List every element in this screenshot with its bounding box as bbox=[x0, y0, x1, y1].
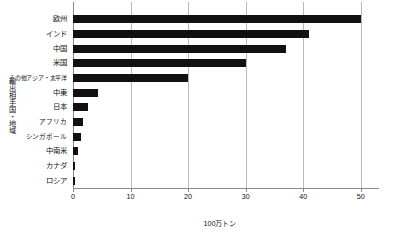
x-axis-title: 100万トン bbox=[0, 218, 412, 228]
bar[interactable] bbox=[73, 30, 309, 38]
bar[interactable] bbox=[73, 59, 246, 67]
category-label: インド bbox=[16, 27, 70, 42]
tick-label: 10 bbox=[127, 192, 135, 201]
y-axis-title: 輸出相手国・地域 bbox=[2, 78, 16, 134]
bar[interactable] bbox=[73, 133, 81, 141]
bar-row[interactable] bbox=[73, 115, 378, 130]
bar[interactable] bbox=[73, 147, 78, 155]
category-label: 欧州 bbox=[16, 12, 70, 27]
category-label: 米国 bbox=[16, 56, 70, 71]
bar[interactable] bbox=[73, 74, 188, 82]
category-label: 中国 bbox=[16, 41, 70, 56]
category-label: 日本 bbox=[16, 100, 70, 115]
bar[interactable] bbox=[73, 15, 361, 23]
bar-row[interactable] bbox=[73, 100, 378, 115]
bar-row[interactable] bbox=[73, 173, 378, 188]
tick-label: 20 bbox=[184, 192, 192, 201]
bar[interactable] bbox=[73, 103, 88, 111]
x-axis-ticks: 01020304050 bbox=[73, 189, 378, 201]
category-label: シンガポール bbox=[16, 129, 70, 144]
bar[interactable] bbox=[73, 177, 75, 185]
bars-container bbox=[73, 12, 378, 188]
tick-label: 50 bbox=[357, 192, 365, 201]
bar-row[interactable] bbox=[73, 129, 378, 144]
tick-label: 30 bbox=[242, 192, 250, 201]
category-label: カナダ bbox=[16, 159, 70, 174]
plot-area bbox=[73, 12, 378, 188]
category-label: 中東 bbox=[16, 85, 70, 100]
bar-row[interactable] bbox=[73, 56, 378, 71]
category-label: その他アジア・太平洋 bbox=[16, 71, 70, 86]
bar-row[interactable] bbox=[73, 85, 378, 100]
bar[interactable] bbox=[73, 45, 286, 53]
bar-row[interactable] bbox=[73, 71, 378, 86]
bar-row[interactable] bbox=[73, 159, 378, 174]
bar[interactable] bbox=[73, 89, 98, 97]
tick-label: 40 bbox=[299, 192, 307, 201]
bar-row[interactable] bbox=[73, 41, 378, 56]
bar-row[interactable] bbox=[73, 12, 378, 27]
bar-row[interactable] bbox=[73, 144, 378, 159]
category-label: 中南米 bbox=[16, 144, 70, 159]
category-label: ロシア bbox=[16, 173, 70, 188]
bar-chart: 輸出相手国・地域 欧州 インド 中国 米国 その他アジア・太平洋 中東 日本 ア… bbox=[0, 0, 412, 239]
bar[interactable] bbox=[73, 162, 75, 170]
tick-label: 0 bbox=[71, 192, 75, 201]
category-label: アフリカ bbox=[16, 115, 70, 130]
bar-row[interactable] bbox=[73, 27, 378, 42]
category-axis-labels: 欧州 インド 中国 米国 その他アジア・太平洋 中東 日本 アフリカ シンガポー… bbox=[16, 12, 70, 188]
bar[interactable] bbox=[73, 118, 83, 126]
